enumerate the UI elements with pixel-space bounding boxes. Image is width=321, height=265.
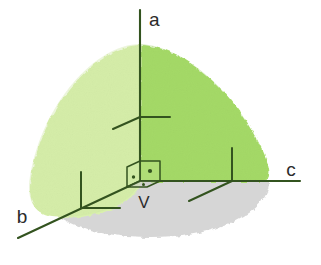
figure-canvas: a b c V (0, 0, 321, 265)
vertex-label: V (138, 193, 150, 212)
right-angle-corner-icon (127, 161, 160, 187)
axis-c-label: c (286, 159, 296, 180)
axis-b-label: b (17, 206, 28, 227)
axis-a-label: a (149, 9, 160, 30)
geometry-diagram: a b c V (0, 0, 321, 265)
